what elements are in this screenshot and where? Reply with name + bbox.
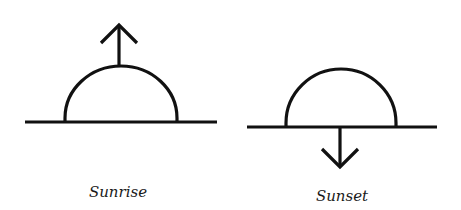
- sunrise-sun-dome-icon: [65, 66, 177, 122]
- sunrise-panel: Sunrise: [25, 25, 217, 201]
- down-arrow-icon: [322, 127, 358, 167]
- sunrise-label: Sunrise: [89, 183, 147, 201]
- sunset-label: Sunset: [316, 187, 369, 205]
- sunrise-sunset-diagram: Sunrise Sunset: [0, 0, 461, 210]
- up-arrow-icon: [101, 25, 137, 66]
- sunset-sun-dome-icon: [286, 69, 396, 127]
- sunset-panel: Sunset: [247, 69, 437, 205]
